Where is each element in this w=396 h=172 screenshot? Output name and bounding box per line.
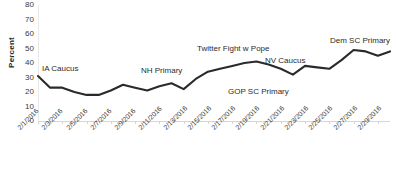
y-axis-tick-label: 10: [4, 103, 34, 111]
x-axis-tick-labels: 2/1/20162/3/20162/5/20162/7/20162/9/2016…: [38, 122, 390, 170]
y-axis-tick-label: 50: [4, 45, 34, 53]
x-axis-tick-mark: [305, 122, 306, 124]
x-axis-tick-mark: [111, 122, 112, 124]
x-axis-tick-mark: [208, 122, 209, 124]
x-axis-tick-mark: [38, 122, 39, 124]
x-axis-tick-mark: [378, 122, 379, 124]
plot-area: [38, 5, 390, 121]
y-axis-tick-label: 20: [4, 88, 34, 96]
x-axis-tick-mark: [62, 122, 63, 124]
x-axis-tick-mark: [256, 122, 257, 124]
y-axis-tick-label: 60: [4, 30, 34, 38]
chart-annotation-label: IA Caucus: [42, 64, 78, 73]
x-axis-tick-mark: [184, 122, 185, 124]
chart-annotation-label: NV Caucus: [265, 56, 305, 65]
chart-annotation-label: Twitter Fight w Pope: [197, 44, 269, 53]
x-axis-tick-mark: [87, 122, 88, 124]
y-axis-tick-labels: 80706050403020100: [0, 0, 34, 126]
x-axis-tick-mark: [281, 122, 282, 124]
chart-annotation-label: Dem SC Primary: [330, 36, 390, 45]
x-axis-tick-mark: [354, 122, 355, 124]
x-axis-tick-mark: [159, 122, 160, 124]
x-axis-tick-mark: [232, 122, 233, 124]
y-axis-tick-label: 40: [4, 59, 34, 67]
y-axis-tick-label: 30: [4, 74, 34, 82]
y-axis-tick-label: 80: [4, 1, 34, 9]
x-axis-tick-mark: [135, 122, 136, 124]
chart-container: Percent 80706050403020100 2/1/20162/3/20…: [0, 0, 396, 172]
chart-annotation-label: NH Primary: [141, 66, 182, 75]
y-axis-tick-label: 70: [4, 16, 34, 24]
x-axis-tick-mark: [329, 122, 330, 124]
chart-annotation-label: GOP SC Primary: [228, 87, 289, 96]
percent-line-series: [38, 5, 390, 121]
